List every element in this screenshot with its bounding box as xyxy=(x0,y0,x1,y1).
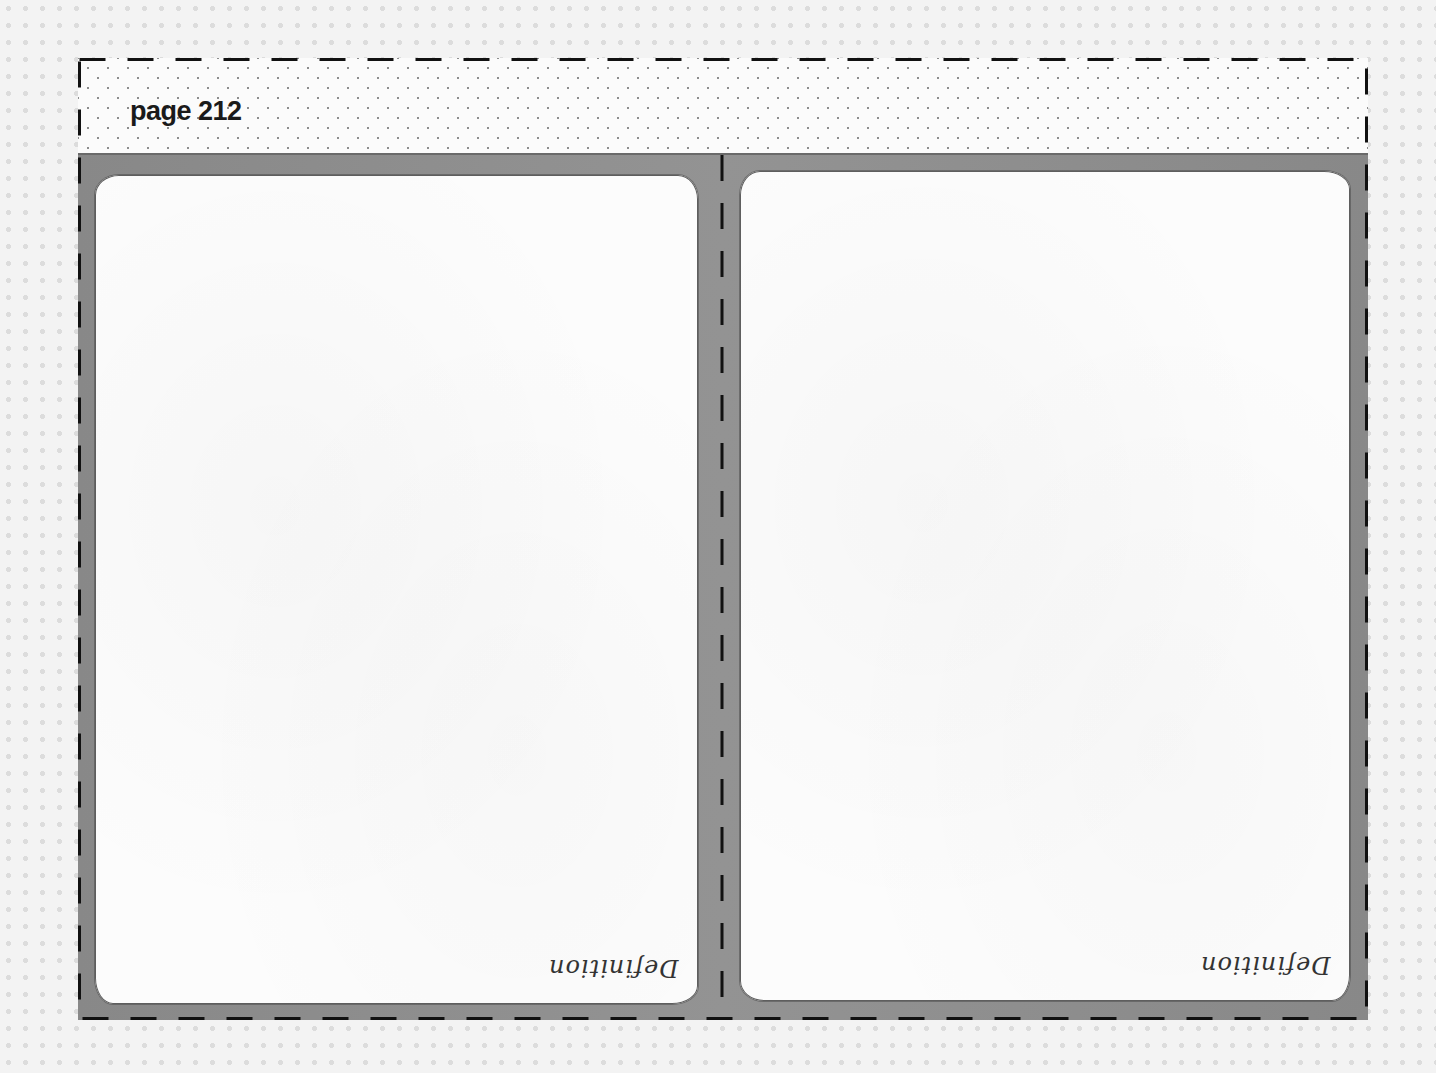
definition-card-left[interactable]: Definition xyxy=(95,175,698,1004)
card-slot-right: Definition xyxy=(722,155,1368,1020)
header-band: page 212 xyxy=(78,58,1368,155)
card-panel-area: Definition Definition xyxy=(78,155,1368,1020)
page-label: page 212 xyxy=(130,96,242,127)
definition-card-right[interactable]: Definition xyxy=(740,171,1350,1001)
card-slot-left: Definition xyxy=(78,155,722,1020)
flashcard-sheet: page 212 Definition Definition xyxy=(78,58,1368,1020)
definition-label: Definition xyxy=(548,954,678,982)
definition-label: Definition xyxy=(1200,951,1330,979)
